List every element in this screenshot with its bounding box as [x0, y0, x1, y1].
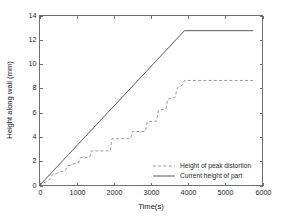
y-tick-label: 8 [33, 83, 37, 92]
y-tick-label: 14 [29, 11, 37, 20]
y-axis-title: Height along wall (mm) [5, 61, 14, 139]
y-axis-tick-labels: 02468101214 [29, 11, 37, 190]
axis-box [40, 16, 263, 186]
x-tick-label: 1000 [70, 188, 86, 197]
legend: Height of peak distortion Current height… [153, 162, 251, 180]
y-tick-label: 6 [33, 108, 37, 117]
legend-label-peak-distortion: Height of peak distortion [180, 162, 251, 170]
x-axis-tick-labels: 0100020003000400050006000 [39, 188, 272, 197]
legend-label-current-height: Current height of part [180, 172, 242, 180]
y-tick-label: 2 [33, 156, 37, 165]
y-axis-ticks [40, 17, 263, 187]
x-tick-label: 4000 [181, 188, 197, 197]
x-axis-ticks [41, 16, 264, 186]
y-tick-label: 0 [33, 181, 37, 190]
chart-figure: 0100020003000400050006000 02468101214 Ti… [0, 0, 283, 216]
x-tick-label: 5000 [218, 188, 234, 197]
y-tick-label: 10 [29, 59, 37, 68]
y-tick-label: 12 [29, 35, 37, 44]
x-tick-label: 6000 [256, 188, 272, 197]
axes-frame [40, 16, 263, 186]
x-tick-label: 3000 [144, 188, 160, 197]
series-height-of-peak-distortion [40, 80, 254, 185]
x-tick-label: 0 [39, 188, 43, 197]
line-chart: 0100020003000400050006000 02468101214 Ti… [0, 0, 283, 216]
x-tick-label: 2000 [107, 188, 123, 197]
x-axis-title: Time(s) [138, 202, 164, 211]
y-tick-label: 4 [33, 132, 37, 141]
